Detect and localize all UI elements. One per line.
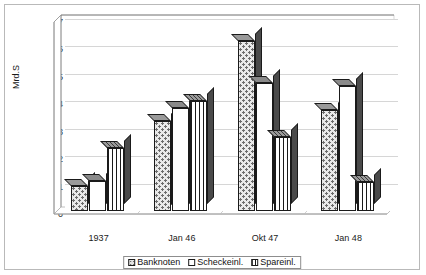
- bar-front-face: [256, 83, 273, 211]
- x-axis-label: Jan 48: [318, 233, 378, 243]
- bar-front-face: [321, 110, 338, 211]
- bar-side-face: [207, 87, 214, 204]
- bar-front-face: [107, 148, 124, 211]
- x-axis-label: Okt 47: [235, 233, 295, 243]
- bar-top-face: [100, 141, 124, 148]
- bar-top-face: [231, 34, 255, 41]
- bar-top-face: [332, 79, 356, 86]
- bar-front-face: [154, 121, 171, 212]
- legend-swatch-icon: [251, 259, 258, 266]
- y-axis-tick: 4: [33, 100, 63, 109]
- bar-banknoten-jan-46[interactable]: [154, 121, 171, 212]
- y-axis-title: Mrd.S: [11, 65, 21, 89]
- x-axis-label: 1937: [69, 233, 129, 243]
- x-axis-label: Jan 46: [152, 233, 212, 243]
- bar-front-face: [339, 86, 356, 211]
- bar-scheckeinl-jan-48[interactable]: [339, 86, 356, 211]
- legend-label: Scheckeinl.: [197, 258, 243, 267]
- y-axis-tick: 5: [33, 73, 63, 82]
- bar-top-face: [147, 114, 171, 121]
- bar-side-face: [291, 123, 298, 204]
- chart-screenshot: 01234567 Mrd.S: [0, 0, 426, 275]
- bar-spareinl-jan-48[interactable]: [357, 182, 374, 211]
- legend-item-spareinl[interactable]: Spareinl.: [251, 258, 296, 267]
- bar-group: [315, 19, 398, 211]
- x-axis-labels: 1937Jan 46Okt 47Jan 48: [45, 233, 411, 247]
- y-axis-tick: 6: [33, 45, 63, 54]
- bars-layer: [65, 19, 398, 211]
- bar-side-face: [374, 168, 381, 204]
- bar-top-face: [82, 174, 106, 181]
- legend-swatch-icon: [128, 259, 135, 266]
- bar-spareinl-okt-47[interactable]: [274, 137, 291, 211]
- legend-label: Banknoten: [137, 258, 180, 267]
- bar-scheckeinl-okt-47[interactable]: [256, 83, 273, 211]
- bar-side-face: [124, 134, 131, 204]
- chart-frame: 01234567 Mrd.S: [4, 4, 420, 270]
- bar-top-face: [64, 179, 88, 186]
- bar-top-face: [314, 103, 338, 110]
- bar-scheckeinl-1937[interactable]: [89, 181, 106, 211]
- legend-swatch-icon: [188, 259, 195, 266]
- bar-front-face: [71, 186, 88, 211]
- bar-front-face: [357, 182, 374, 211]
- bar-spareinl-jan-46[interactable]: [190, 101, 207, 211]
- legend-item-banknoten[interactable]: Banknoten: [128, 258, 180, 267]
- bar-scheckeinl-jan-46[interactable]: [172, 108, 189, 211]
- bar-banknoten-okt-47[interactable]: [238, 41, 255, 211]
- y-axis-tick: 7: [33, 18, 63, 27]
- bar-group: [148, 19, 231, 211]
- y-axis-tick: 3: [33, 128, 63, 137]
- clipped-caption-strip: [18, 0, 318, 3]
- bar-top-face: [183, 94, 207, 101]
- bar-group: [232, 19, 315, 211]
- bar-front-face: [190, 101, 207, 211]
- chart-legend: BanknotenScheckeinl.Spareinl.: [123, 256, 301, 269]
- y-axis: 01234567: [29, 13, 65, 219]
- bar-front-face: [238, 41, 255, 211]
- bar-front-face: [89, 181, 106, 211]
- legend-label: Spareinl.: [260, 258, 296, 267]
- y-axis-tick: 2: [33, 155, 63, 164]
- y-axis-tick: 1: [33, 183, 63, 192]
- y-axis-tick: 0: [33, 210, 63, 219]
- legend-item-scheckeinl[interactable]: Scheckeinl.: [188, 258, 243, 267]
- bar-spareinl-1937[interactable]: [107, 148, 124, 211]
- bar-front-face: [274, 137, 291, 211]
- bar-banknoten-1937[interactable]: [71, 186, 88, 211]
- bar-top-face: [165, 101, 189, 108]
- bar-banknoten-jan-48[interactable]: [321, 110, 338, 211]
- bar-front-face: [172, 108, 189, 211]
- bar-group: [65, 19, 148, 211]
